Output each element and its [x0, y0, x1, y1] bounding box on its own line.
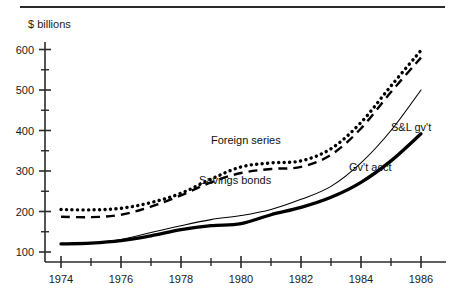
x-tick-label: 1976: [109, 273, 133, 285]
x-tick-label: 1980: [229, 273, 253, 285]
series-label-gv-t-acct: Gv't acct: [349, 161, 391, 173]
x-tick-label: 1986: [409, 273, 433, 285]
x-tick-label: 1984: [349, 273, 373, 285]
axis-ticks-group: [39, 50, 421, 269]
y-tick-label: 500: [16, 84, 34, 96]
series-annotations-group: Foreign seriesSavings bondsS&L gv'tGv't …: [199, 121, 431, 186]
chart-plot-area: 1002003004005006001974197619781980198219…: [0, 0, 458, 298]
y-tick-label: 400: [16, 125, 34, 137]
x-tick-label: 1974: [49, 273, 73, 285]
axis-lines-group: [45, 42, 446, 262]
series-label-savings-bonds: Savings bonds: [199, 174, 272, 186]
series-lines-group: [61, 50, 421, 244]
x-tick-label: 1978: [169, 273, 193, 285]
y-tick-label: 200: [16, 206, 34, 218]
y-tick-label: 100: [16, 246, 34, 258]
y-tick-label: 300: [16, 165, 34, 177]
y-tick-label: 600: [16, 44, 34, 56]
series-label-s-l-gv-t: S&L gv't: [391, 121, 431, 133]
series-label-foreign-series: Foreign series: [211, 134, 281, 146]
x-tick-label: 1982: [289, 273, 313, 285]
chart-figure: $ billions 10020030040050060019741976197…: [0, 0, 458, 298]
series-line-gv-t-acct: [61, 134, 421, 244]
series-line-foreign-series: [61, 50, 421, 210]
